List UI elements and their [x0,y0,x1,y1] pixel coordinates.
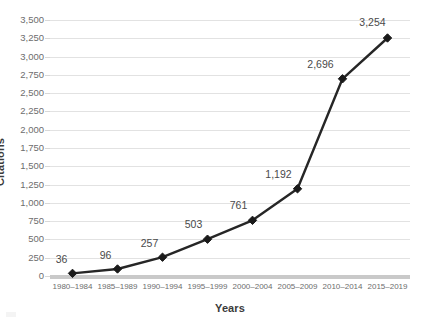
x-axis-title: Years [50,302,410,314]
y-tick-label: 1,500 [20,162,44,172]
y-tick-label: 1,000 [20,198,44,208]
y-tick-mark [45,276,50,277]
y-tick-label: 3,000 [20,52,44,62]
x-tick-label: 1995–1999 [187,283,227,291]
y-tick-label: 3,500 [20,15,44,25]
y-tick-label: 1,750 [20,143,44,153]
data-point-label: 257 [141,238,159,249]
data-point-label: 96 [100,249,112,260]
y-tick-label: 0 [39,271,44,281]
corner-artifact [6,312,16,317]
y-tick-label: 2,500 [20,88,44,98]
x-tick-label: 2000–2004 [232,283,272,291]
y-tick-label: 750 [28,216,44,226]
y-tick-label: 1,250 [20,180,44,190]
x-tick-label: 1990–1994 [142,283,182,291]
x-tick-label: 1985–1989 [97,283,137,291]
data-point-label: 503 [185,219,203,230]
x-tick-label: 2015–2019 [367,283,407,291]
series-citations [50,20,410,276]
x-tick-label: 2010–2014 [322,283,362,291]
data-point-label: 3,254 [359,16,385,27]
plot-area: 3,5003,2503,0002,7502,5002,2502,0001,750… [50,20,410,276]
data-point-marker [203,235,211,243]
data-point-label: 761 [230,200,248,211]
data-point-label: 2,696 [307,58,333,69]
data-point-marker [113,265,121,273]
citations-by-years-line-chart: Citations 3,5003,2503,0002,7502,5002,250… [0,0,425,324]
y-tick-label: 2,000 [20,125,44,135]
y-tick-label: 3,250 [20,34,44,44]
y-tick-label: 500 [28,235,44,245]
x-tick-label: 2005–2009 [277,283,317,291]
y-tick-label: 250 [28,253,44,263]
series-markers [68,34,391,278]
data-point-label: 36 [56,254,68,265]
y-tick-label: 2,750 [20,70,44,80]
data-point-marker [158,253,166,261]
data-point-label: 1,192 [265,168,291,179]
x-tick-label: 1980–1984 [52,283,92,291]
y-tick-label: 2,250 [20,107,44,117]
series-line [73,38,388,273]
